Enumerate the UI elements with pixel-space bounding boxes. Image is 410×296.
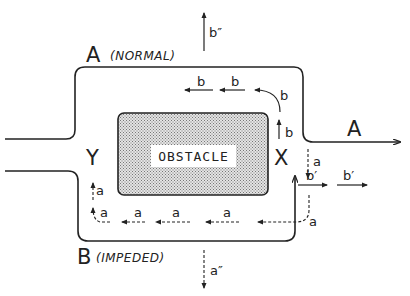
b-top-label-2: b: [231, 74, 239, 89]
b-escape-label: b″: [209, 25, 222, 40]
exit-a-label: A: [347, 117, 362, 141]
a-escape-label: a″: [210, 263, 223, 278]
b-up-label: b: [285, 125, 293, 140]
a-curve-arrow: [258, 195, 309, 222]
point-y-label: Y: [85, 146, 99, 170]
b-prime-label-2: b′: [343, 168, 354, 183]
point-x-label: X: [274, 146, 288, 170]
route-a-label: A: [86, 43, 101, 67]
a-bottom-label-3: a: [134, 205, 142, 220]
obstacle: OBSTACLE: [118, 113, 268, 195]
b-curve-arrow: [255, 90, 280, 112]
a-curve-label: a: [309, 214, 317, 229]
a-left-curve-label: a: [100, 205, 108, 220]
a-left-up-label: a: [96, 183, 104, 198]
route-b-note: (IMPEDED): [96, 251, 165, 265]
b-top-label-1: b: [197, 74, 205, 89]
a-bottom-label-1: a: [223, 205, 231, 220]
route-b-label: B: [77, 245, 91, 269]
a-bottom-label-2: a: [172, 205, 180, 220]
obstacle-label: OBSTACLE: [158, 149, 229, 164]
route-a-note: (NORMAL): [110, 49, 175, 63]
a-down-label: a: [313, 154, 321, 169]
flow-diagram: OBSTACLE A (NORMAL) B (IMPEDED) A X Y b″…: [0, 0, 410, 296]
b-curve-label: b: [280, 88, 288, 103]
